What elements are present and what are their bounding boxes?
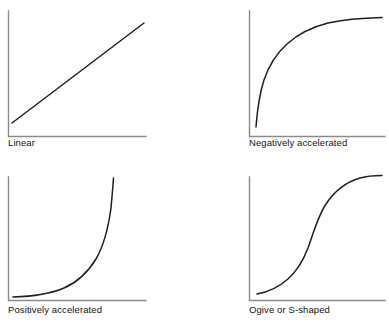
linear-chart-curve (12, 23, 144, 123)
panel-ogive-caption: Ogive or S-shaped (249, 303, 330, 316)
ogive-chart-curve (257, 176, 382, 295)
panel-negatively-accelerated: Negatively accelerated (195, 0, 389, 165)
learning-curves-figure: Linear Negatively accelerated Positively… (0, 0, 389, 331)
panel-positively-accelerated-caption: Positively accelerated (8, 303, 102, 316)
positively-accelerated-chart-curve (13, 178, 114, 297)
panel-ogive: Ogive or S-shaped (195, 166, 389, 331)
linear-chart-plot (0, 0, 194, 140)
negatively-accelerated-chart-axes (250, 11, 386, 137)
ogive-chart-axes (250, 177, 386, 301)
panel-linear: Linear (0, 0, 194, 165)
panel-negatively-accelerated-caption: Negatively accelerated (249, 136, 347, 149)
positively-accelerated-chart-axes (9, 177, 147, 301)
negatively-accelerated-chart-plot (195, 0, 389, 140)
positively-accelerated-chart-plot (0, 166, 194, 306)
negatively-accelerated-chart-curve (256, 18, 382, 128)
ogive-chart-plot (195, 166, 389, 306)
panel-positively-accelerated: Positively accelerated (0, 166, 194, 331)
panel-linear-caption: Linear (8, 136, 35, 149)
